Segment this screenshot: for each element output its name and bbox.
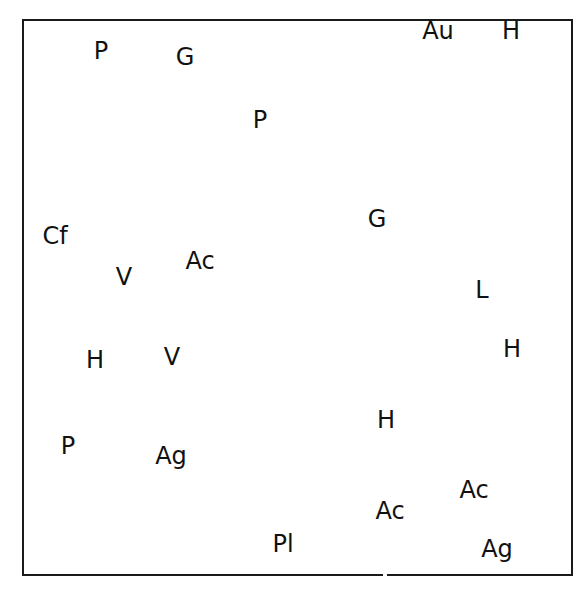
label-au: Au — [422, 19, 454, 43]
label-g-2: G — [368, 207, 387, 231]
label-ac-2: Ac — [459, 478, 488, 502]
label-ag-2: Ag — [481, 537, 513, 561]
label-h-4: H — [377, 408, 395, 432]
label-cf: Cf — [42, 224, 67, 248]
label-v-2: V — [164, 345, 180, 369]
label-g-1: G — [176, 45, 195, 69]
diagram-frame — [22, 19, 573, 576]
label-ac-3: Ac — [375, 499, 404, 523]
label-ac-1: Ac — [185, 249, 214, 273]
label-l: L — [475, 278, 488, 302]
label-p-1: P — [94, 39, 108, 63]
label-h-2: H — [503, 337, 521, 361]
label-h-3: H — [86, 348, 104, 372]
label-p-2: P — [253, 108, 267, 132]
label-v-1: V — [116, 265, 132, 289]
frame-gap — [383, 574, 387, 578]
label-pl: Pl — [272, 532, 293, 556]
label-p-3: P — [61, 434, 75, 458]
label-ag-1: Ag — [155, 444, 187, 468]
label-h-1: H — [502, 19, 520, 43]
